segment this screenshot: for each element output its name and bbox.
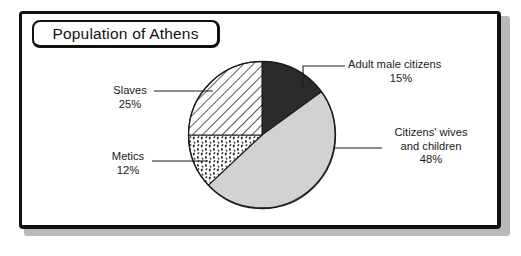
pie-label-slaves-value: 25% [108, 98, 152, 112]
pie-label-slaves-text: Slaves [108, 84, 152, 98]
pie-label-metics: Metics 12% [104, 150, 152, 177]
pie-label-metics-value: 12% [104, 164, 152, 178]
pie-label-citizens-wives-value: 48% [385, 153, 477, 167]
pie-label-adult-male-citizens: Adult male citizens 15% [348, 58, 454, 85]
pie-label-adult-male-citizens-value: 15% [348, 72, 454, 86]
pie-label-adult-male-citizens-text: Adult male citizens [348, 58, 454, 72]
pie-slice-slaves[interactable] [189, 62, 263, 136]
pie-label-citizens-wives-line1: Citizens' wives [385, 126, 477, 140]
pie-label-citizens-wives-line2: and children [385, 140, 477, 154]
pie-label-metics-text: Metics [104, 150, 152, 164]
pie-label-slaves: Slaves 25% [108, 84, 152, 111]
pie-label-citizens-wives-and-children: Citizens' wives and children 48% [385, 126, 477, 167]
figure-root: Population of Athens [0, 0, 521, 256]
